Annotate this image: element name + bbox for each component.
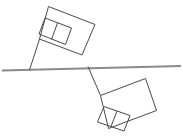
figure-container: A horizontal line with a tilted rectangu… [0,0,183,140]
upper-flag-banner [40,7,96,56]
lower-flag-inner-divider [111,111,117,127]
lower-flag-group [88,67,157,132]
upper-flag-group [30,7,96,71]
upper-flag-inner-divider [52,23,58,40]
geometry-figure [0,0,183,140]
upper-flag-pole [30,39,40,70]
ground-line [2,66,181,71]
lower-flag-banner [101,79,157,129]
lower-flag-pole [88,67,101,96]
